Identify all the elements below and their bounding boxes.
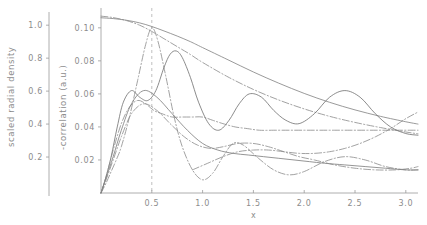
axis-left-outer-label: scaled radial density — [6, 47, 16, 148]
axis-x-ticklabel: 2.5 — [348, 199, 363, 208]
axis-left-outer-ticklabel: 0.8 — [28, 54, 43, 63]
series-correlation-lower-dashdot — [101, 104, 418, 193]
axis-left-inner: 0.020.040.060.080.10 -correlation (a.u.) — [58, 8, 101, 193]
axis-x-ticklabel: 3.0 — [398, 199, 413, 208]
chart-svg: 0.20.40.60.81.0 scaled radial density 0.… — [0, 0, 427, 225]
axis-x-ticklabel: 1.0 — [195, 199, 210, 208]
axis-left-outer-ticklabel: 0.6 — [28, 87, 43, 96]
series-correlation-peak-solid-shifted — [101, 51, 418, 193]
axis-left-inner-ticklabel: 0.04 — [74, 123, 95, 132]
chart-series-group — [101, 16, 418, 193]
axis-x-ticklabel: 1.5 — [246, 199, 261, 208]
axis-left-outer-ticklabel: 0.2 — [28, 153, 43, 162]
axis-left-outer-ticks: 0.20.40.60.81.0 — [28, 21, 49, 162]
axis-x: 0.51.01.52.02.53.0 x — [101, 190, 418, 220]
figure-canvas: 0.20.40.60.81.0 scaled radial density 0.… — [0, 0, 427, 225]
axis-left-inner-ticklabel: 0.06 — [74, 90, 95, 99]
axis-left-inner-ticklabel: 0.02 — [74, 156, 95, 165]
axis-left-inner-ticks: 0.020.040.060.080.10 — [74, 24, 101, 165]
axis-left-inner-label: -correlation (a.u.) — [58, 65, 68, 150]
axis-left-inner-ticklabel: 0.08 — [74, 57, 95, 66]
axis-x-ticklabel: 2.0 — [297, 199, 312, 208]
axis-x-label: x — [251, 211, 256, 220]
series-correlation-peak-dashdot-narrow — [101, 28, 418, 193]
axis-left-outer-ticklabel: 1.0 — [28, 21, 43, 30]
axis-left-outer: 0.20.40.60.81.0 scaled radial density — [6, 12, 49, 196]
axis-x-ticklabel: 0.5 — [144, 199, 159, 208]
axis-left-inner-ticklabel: 0.10 — [74, 24, 95, 33]
axis-left-outer-ticklabel: 0.4 — [28, 120, 43, 129]
